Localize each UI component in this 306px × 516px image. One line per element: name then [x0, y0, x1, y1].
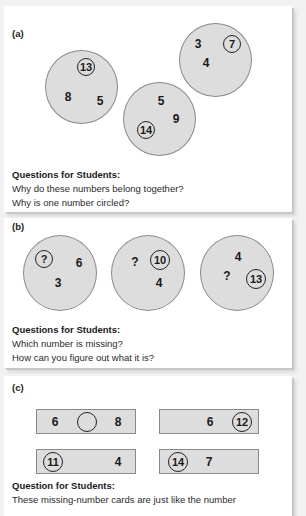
number: 8 [115, 416, 122, 428]
number: 3 [195, 38, 202, 50]
number: 5 [158, 95, 165, 107]
circled-number: 10 [150, 250, 170, 270]
panel-a-label: (a) [12, 28, 24, 39]
panel-b-label: (b) [12, 221, 24, 232]
panel-a: (a) 13 8 5 5 9 14 3 7 4 Questions for St… [4, 6, 292, 212]
missing-number-card: 14 7 [159, 449, 259, 474]
circled-number: 11 [43, 452, 63, 472]
panel-b: (b) ? 6 3 ? 10 4 4 ? 13 Questions for St… [4, 218, 292, 368]
panel-c: (c) 6 8 6 12 11 4 14 7 Question for Stud… [4, 376, 292, 516]
question-line: These missing-number cards are just like… [12, 494, 236, 505]
number-circle: 3 7 4 [179, 23, 252, 97]
questions-title: Questions for Students: [12, 169, 120, 180]
missing-number-card: 11 4 [36, 449, 136, 474]
question-line: Which number is missing? [12, 338, 123, 349]
panel-c-label: (c) [12, 382, 24, 393]
number: ? [223, 270, 230, 282]
number-circle: ? 6 3 [23, 235, 97, 311]
circled-number: 13 [77, 58, 95, 76]
circled-number: 14 [168, 452, 188, 472]
question-line: Why do these numbers belong together? [12, 183, 184, 194]
number-circle: 13 8 5 [45, 50, 118, 124]
empty-circle [77, 412, 97, 432]
questions-title: Questions for Students: [12, 324, 120, 335]
number-circle: 4 ? 13 [200, 235, 274, 311]
number: 4 [203, 57, 210, 69]
number: 4 [156, 277, 163, 289]
number-circle: 5 9 14 [123, 82, 196, 156]
questions-title: Question for Students: [12, 480, 115, 491]
circled-number: 14 [137, 121, 155, 139]
number: 8 [65, 91, 72, 103]
number: 6 [76, 257, 83, 269]
number: ? [131, 256, 138, 268]
number: 3 [55, 277, 62, 289]
number: 9 [173, 113, 180, 125]
number-circle: ? 10 4 [111, 235, 185, 311]
circled-number: 7 [223, 35, 241, 53]
number: 6 [207, 416, 214, 428]
missing-number-card: 6 8 [36, 409, 136, 434]
question-line: Why is one number circled? [12, 197, 129, 208]
circled-number: 13 [246, 269, 266, 289]
circled-number: ? [35, 250, 53, 268]
missing-number-card: 6 12 [159, 409, 259, 434]
number: 5 [97, 95, 104, 107]
number: 4 [235, 251, 242, 263]
circled-number: 12 [232, 412, 252, 432]
number: 4 [115, 456, 122, 468]
number: 7 [206, 456, 213, 468]
number: 6 [52, 416, 59, 428]
question-line: How can you figure out what it is? [12, 352, 154, 363]
